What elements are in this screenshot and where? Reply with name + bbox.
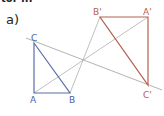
line-BB-prime xyxy=(70,17,100,93)
line-CC-prime xyxy=(26,38,162,90)
triangle-ABC xyxy=(34,43,70,93)
point-reflection-diagram: A B C A' B' C' xyxy=(0,0,164,116)
label-C-prime: C' xyxy=(143,90,152,100)
label-A-prime: A' xyxy=(143,7,152,17)
label-A: A xyxy=(30,95,37,105)
label-C: C xyxy=(31,33,37,43)
label-B: B xyxy=(69,95,75,105)
line-AA-prime xyxy=(34,17,148,93)
label-B-prime: B' xyxy=(93,7,102,17)
triangle-A-prime-B-prime-C-prime xyxy=(100,17,148,85)
